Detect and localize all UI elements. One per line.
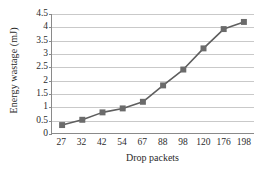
series-line (62, 22, 244, 125)
y-axis-tick-label: 4 (22, 23, 48, 33)
y-axis-tick-label: 0 (22, 129, 48, 139)
data-point-marker (160, 82, 166, 88)
y-axis-tick-label: 2 (22, 76, 48, 86)
chart-figure: Energy wastage (mJ) 00.511.522.533.544.5… (0, 0, 266, 179)
x-axis-tick-label: 32 (77, 137, 87, 148)
line-series (52, 14, 254, 133)
x-axis-tick-label: 176 (216, 137, 230, 148)
y-axis-tick-label: 3 (22, 49, 48, 59)
x-axis-tick-label: 54 (117, 137, 127, 148)
y-axis-tick-label: 1 (22, 103, 48, 113)
y-axis-tick-label: 0.5 (22, 116, 48, 126)
x-axis-tick-label: 67 (138, 137, 148, 148)
plot-area (51, 14, 254, 134)
x-axis-tick-label: 120 (196, 137, 210, 148)
y-axis-tick-labels: 00.511.522.533.544.5 (22, 9, 48, 135)
y-axis-tick-label: 2.5 (22, 63, 48, 73)
x-axis-tick-label: 88 (158, 137, 168, 148)
data-point-marker (180, 67, 186, 73)
data-point-marker (59, 122, 65, 128)
data-point-marker (120, 105, 126, 111)
data-point-marker (140, 99, 146, 105)
data-point-marker (100, 109, 106, 115)
x-axis-tick-label: 198 (237, 137, 251, 148)
y-axis-tick-label: 3.5 (22, 36, 48, 46)
x-axis-tick-labels: 27324254678898120176198 (51, 137, 254, 151)
y-axis-tick-label: 4.5 (22, 9, 48, 19)
x-axis-tick-label: 42 (97, 137, 107, 148)
data-point-marker (201, 45, 207, 51)
y-axis-tick (49, 134, 52, 135)
x-axis-tick-label: 27 (56, 137, 66, 148)
data-point-marker (79, 117, 85, 123)
data-point-marker (221, 26, 227, 32)
data-point-marker (241, 19, 247, 25)
y-axis-tick-label: 1.5 (22, 89, 48, 99)
x-axis-tick-label: 98 (178, 137, 188, 148)
y-axis-title-text: Energy wastage (mJ) (8, 27, 19, 113)
x-axis-title: Drop packets (51, 152, 254, 163)
